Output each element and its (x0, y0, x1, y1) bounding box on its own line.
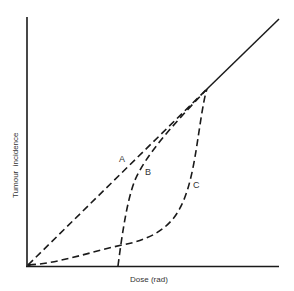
dose-response-diagram: A B C Dose (rad) Tumour incidence (0, 0, 294, 291)
label-b: B (145, 167, 151, 177)
label-a: A (119, 154, 125, 164)
x-axis-title: Dose (rad) (130, 275, 168, 284)
curve-b (118, 89, 207, 266)
curve-a (28, 89, 207, 265)
label-c: C (193, 180, 200, 190)
y-axis-title: Tumour incidence (11, 132, 20, 198)
origin-point (27, 263, 30, 266)
solid-line (207, 19, 279, 89)
